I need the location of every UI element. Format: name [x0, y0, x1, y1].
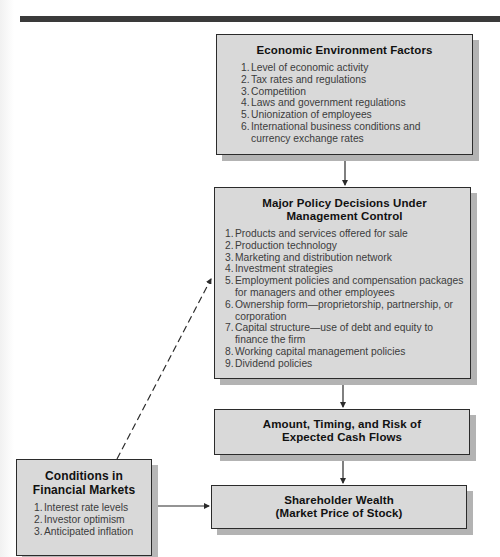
cash-flows-title: Amount, Timing, and Risk of Expected Cas…	[221, 418, 463, 444]
item-number: 2.	[225, 240, 235, 252]
policy-decisions-list: 1.Products and services offered for sale…	[225, 228, 464, 370]
item-text: Unionization of employees	[251, 109, 462, 121]
economic-environment-box: Economic Environment Factors 1.Level of …	[216, 34, 473, 155]
item-number: 2.	[34, 514, 44, 526]
list-item: 2.Production technology	[225, 240, 464, 252]
item-number: 7.	[225, 322, 235, 346]
financial-markets-box: Conditions in Financial Markets 1.Intere…	[16, 459, 152, 556]
list-item: 4.Laws and government regulations	[241, 97, 462, 109]
list-item: 6.International business conditions and …	[241, 121, 462, 145]
item-number: 4.	[241, 97, 251, 109]
list-item: 2.Investor optimism	[34, 514, 147, 526]
item-number: 2.	[241, 74, 251, 86]
list-item: 2.Tax rates and regulations	[241, 74, 462, 86]
item-number: 3.	[34, 526, 44, 538]
list-item: 6.Ownership form—proprietorship, partner…	[225, 299, 464, 323]
title-line: Management Control	[225, 210, 464, 223]
title-line: Amount, Timing, and Risk of	[221, 418, 463, 431]
item-number: 1.	[241, 62, 251, 74]
list-item: 1.Level of economic activity	[241, 62, 462, 74]
item-number: 4.	[225, 263, 235, 275]
title-line: Financial Markets	[21, 483, 147, 497]
dashed-arrow-markets-to-policy	[117, 279, 211, 459]
list-item: 1.Interest rate levels	[34, 502, 147, 514]
item-text: Interest rate levels	[44, 502, 147, 514]
item-number: 8.	[225, 346, 235, 358]
cash-flows-box: Amount, Timing, and Risk of Expected Cas…	[214, 409, 470, 455]
shareholder-wealth-box: Shareholder Wealth (Market Price of Stoc…	[211, 485, 467, 529]
item-text: International business conditions and cu…	[251, 121, 462, 145]
item-text: Employment policies and compensation pac…	[235, 275, 464, 299]
shareholder-wealth-title: Shareholder Wealth (Market Price of Stoc…	[218, 494, 460, 520]
list-item: 5.Employment policies and compensation p…	[225, 275, 464, 299]
economic-environment-title: Economic Environment Factors	[227, 44, 462, 57]
item-number: 5.	[225, 275, 235, 299]
list-item: 7.Capital structure—use of debt and equi…	[225, 322, 464, 346]
policy-decisions-box: Major Policy Decisions Under Management …	[214, 187, 471, 379]
list-item: 9.Dividend policies	[225, 358, 464, 370]
item-text: Dividend policies	[235, 358, 464, 370]
list-item: 1.Products and services offered for sale	[225, 228, 464, 240]
item-number: 3.	[241, 86, 251, 98]
list-item: 3.Marketing and distribution network	[225, 252, 464, 264]
item-text: Ownership form—proprietorship, partnersh…	[235, 299, 464, 323]
title-line: Shareholder Wealth	[218, 494, 460, 507]
item-number: 6.	[225, 299, 235, 323]
economic-environment-list: 1.Level of economic activity 2.Tax rates…	[241, 62, 462, 145]
item-number: 9.	[225, 358, 235, 370]
item-text: Capital structure—use of debt and equity…	[235, 322, 464, 346]
item-text: Investor optimism	[44, 514, 147, 526]
item-text: Products and services offered for sale	[235, 228, 464, 240]
item-text: Production technology	[235, 240, 464, 252]
title-line: Conditions in	[21, 469, 147, 483]
list-item: 4.Investment strategies	[225, 263, 464, 275]
item-text: Working capital management policies	[235, 346, 464, 358]
item-text: Tax rates and regulations	[251, 74, 462, 86]
item-text: Laws and government regulations	[251, 97, 462, 109]
list-item: 8.Working capital management policies	[225, 346, 464, 358]
list-item: 3.Anticipated inflation	[34, 526, 147, 538]
title-line: Major Policy Decisions Under	[225, 197, 464, 210]
item-text: Investment strategies	[235, 263, 464, 275]
item-number: 5.	[241, 109, 251, 121]
header-rule	[20, 16, 500, 22]
title-line: (Market Price of Stock)	[218, 507, 460, 520]
financial-markets-list: 1.Interest rate levels 2.Investor optimi…	[34, 502, 147, 539]
item-number: 1.	[34, 502, 44, 514]
page-edge	[0, 0, 14, 557]
item-number: 3.	[225, 252, 235, 264]
list-item: 5.Unionization of employees	[241, 109, 462, 121]
policy-decisions-title: Major Policy Decisions Under Management …	[225, 197, 464, 223]
title-line: Expected Cash Flows	[221, 431, 463, 444]
item-number: 1.	[225, 228, 235, 240]
item-text: Level of economic activity	[251, 62, 462, 74]
financial-markets-title: Conditions in Financial Markets	[21, 469, 147, 497]
item-number: 6.	[241, 121, 251, 145]
item-text: Marketing and distribution network	[235, 252, 464, 264]
item-text: Anticipated inflation	[44, 526, 147, 538]
item-text: Competition	[251, 86, 462, 98]
list-item: 3.Competition	[241, 86, 462, 98]
